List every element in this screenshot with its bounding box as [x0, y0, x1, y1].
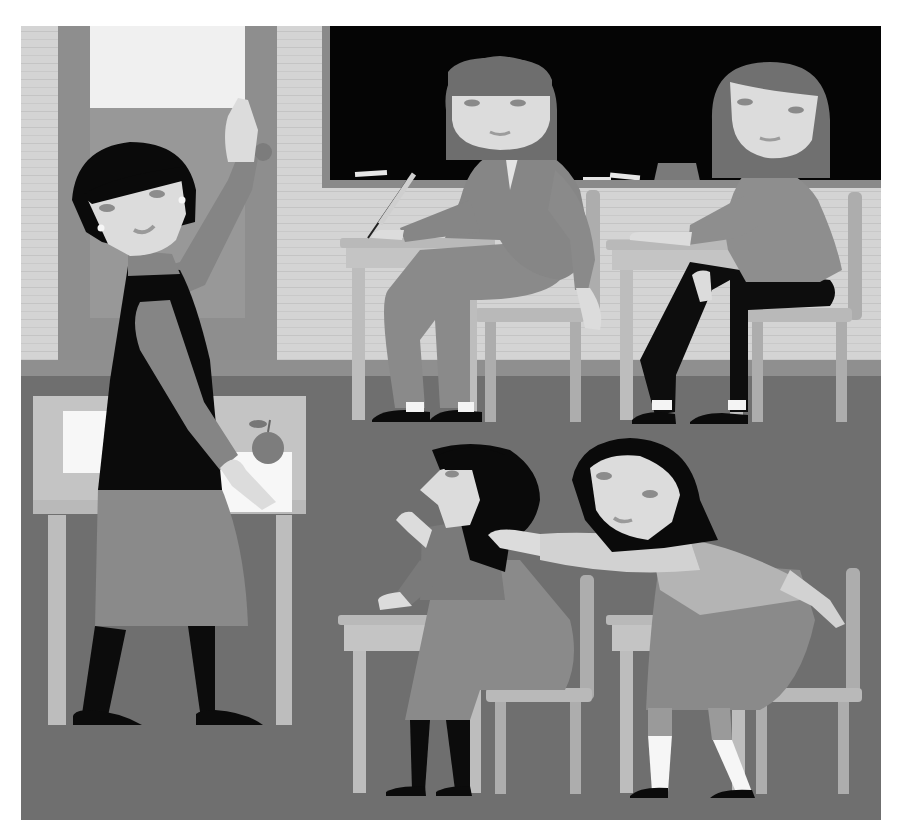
door-window	[90, 26, 245, 108]
earring	[98, 225, 105, 232]
eraser	[654, 163, 700, 181]
classroom-illustration	[0, 0, 903, 839]
earring	[179, 197, 186, 204]
illustration-canvas: Teacher writing on door while students s…	[0, 0, 903, 839]
